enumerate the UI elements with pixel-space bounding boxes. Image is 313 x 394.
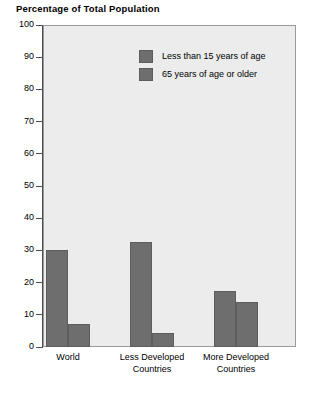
y-axis-line — [42, 25, 43, 348]
legend-swatch-icon — [139, 68, 153, 81]
y-axis-tick-label: 50 — [0, 181, 34, 190]
chart-title: Percentage of Total Population — [16, 3, 160, 14]
bar — [214, 291, 236, 347]
bar — [68, 324, 90, 347]
y-axis-tick — [36, 121, 42, 122]
y-axis-tick-label: 20 — [0, 278, 34, 287]
y-axis-tick-label: 70 — [0, 117, 34, 126]
y-axis-tick — [36, 153, 42, 154]
y-axis-tick — [36, 250, 42, 251]
bar — [236, 302, 258, 347]
y-axis-tick — [36, 314, 42, 315]
y-axis-tick — [36, 25, 42, 26]
y-axis-tick — [36, 89, 42, 90]
y-axis-tick-label: 90 — [0, 52, 34, 61]
bar — [130, 242, 152, 347]
x-axis-tick-label: More Developed Countries — [181, 352, 291, 375]
legend-item: Less than 15 years of age — [139, 47, 299, 65]
legend-item-label: Less than 15 years of age — [162, 51, 266, 61]
y-axis-tick — [36, 57, 42, 58]
y-axis-tick — [36, 347, 42, 348]
y-axis-tick-label: 10 — [0, 310, 34, 319]
legend-item: 65 years of age or older — [139, 65, 299, 83]
bar-chart-figure: Percentage of Total Population 010203040… — [0, 0, 313, 394]
y-axis-tick-label: 0 — [0, 342, 34, 351]
chart-legend: Less than 15 years of age 65 years of ag… — [139, 47, 299, 83]
y-axis-tick — [36, 282, 42, 283]
y-axis-tick — [36, 186, 42, 187]
y-axis-tick-label: 40 — [0, 213, 34, 222]
y-axis-tick-labels: 0102030405060708090100 — [0, 0, 34, 394]
legend-item-label: 65 years of age or older — [162, 69, 257, 79]
y-axis-tick-label: 60 — [0, 149, 34, 158]
legend-swatch-icon — [139, 50, 153, 63]
y-axis-tick-label: 30 — [0, 245, 34, 254]
y-axis-tick — [36, 218, 42, 219]
bar — [46, 250, 68, 347]
bar — [152, 333, 174, 347]
y-axis-tick-label: 80 — [0, 84, 34, 93]
y-axis-tick-label: 100 — [0, 20, 34, 29]
